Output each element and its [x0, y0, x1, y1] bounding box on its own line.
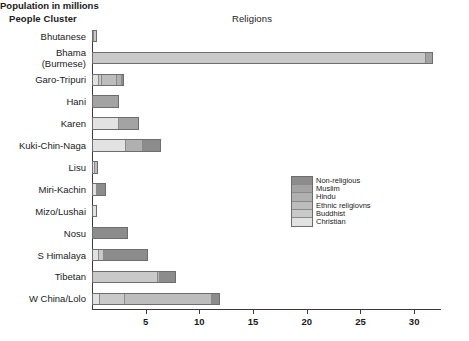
- bar-segment-muslim: [426, 53, 432, 64]
- legend-item[interactable]: Hindu: [292, 193, 312, 201]
- category-label: Lisu: [69, 162, 86, 173]
- bar-segment-non-religious: [97, 184, 105, 195]
- bar-segment-buddhist: [100, 294, 124, 305]
- bar-kuki-chin-naga[interactable]: [92, 139, 161, 152]
- legend-swatch-buddhist: [292, 210, 312, 218]
- chart-root: People Cluster Religions BhutaneseBhama(…: [0, 0, 469, 341]
- x-tick: [414, 309, 415, 314]
- legend-swatch-non-religious: [292, 177, 312, 185]
- category-label: Mizo/Lushai: [35, 206, 86, 217]
- bar-segment-hindu: [126, 140, 143, 151]
- x-tick: [146, 309, 147, 314]
- chart-title: Religions: [232, 13, 272, 24]
- bar-garo-tripuri[interactable]: [92, 74, 124, 87]
- legend-item[interactable]: Non-religious: [292, 177, 312, 185]
- bar-w-china-lolo[interactable]: [92, 293, 220, 306]
- bar-segment-non-religious: [104, 250, 146, 261]
- category-label: Garo-Tripuri: [35, 74, 86, 85]
- bar-s-himalaya[interactable]: [92, 249, 148, 262]
- category-label: Bhutanese: [41, 31, 86, 42]
- legend-item[interactable]: Christian: [292, 218, 312, 226]
- people-cluster-header: People Cluster: [9, 13, 77, 24]
- bar-segment-christian: [93, 206, 96, 217]
- legend-label: Christian: [316, 218, 346, 226]
- category-label: Bhama(Burmese): [42, 47, 86, 69]
- legend-swatch-christian: [292, 218, 312, 226]
- bar-segment-buddhist: [94, 31, 96, 42]
- x-tick: [253, 309, 254, 314]
- legend-item[interactable]: Ethnic religiovns: [292, 202, 312, 210]
- category-label: Karen: [61, 118, 86, 129]
- bar-segment-christian: [93, 140, 126, 151]
- category-label: Kuki-Chin-Naga: [19, 140, 86, 151]
- x-axis-line: [92, 309, 441, 310]
- bar-segment-ethnic-religiovns: [95, 162, 96, 173]
- legend-swatch-hindu: [292, 193, 312, 201]
- legend-item[interactable]: Buddhist: [292, 210, 312, 218]
- legend-swatch-muslim: [292, 185, 312, 193]
- x-tick: [199, 309, 200, 314]
- bar-segment-buddhist: [93, 53, 426, 64]
- bar-segment-non-religious: [212, 294, 218, 305]
- category-label: Miri-Kachin: [38, 184, 86, 195]
- legend-item[interactable]: Muslim: [292, 185, 312, 193]
- x-tick-label: 5: [143, 316, 148, 327]
- bar-bhama-burmese[interactable]: [92, 52, 433, 65]
- bar-nosu[interactable]: [92, 227, 128, 240]
- legend-swatch-ethnic-religiovns: [292, 202, 312, 210]
- bar-segment-buddhist: [93, 272, 158, 283]
- bar-segment-non-religious: [93, 228, 127, 239]
- x-tick-label: 15: [248, 316, 259, 327]
- bar-bhutanese[interactable]: [92, 30, 97, 43]
- x-tick: [360, 309, 361, 314]
- bar-segment-non-religious: [122, 75, 123, 86]
- x-tick-label: 25: [355, 316, 366, 327]
- category-label: Hani: [66, 96, 86, 107]
- x-tick-label: 10: [194, 316, 205, 327]
- legend: Non-religiousMuslimHinduEthnic religiovn…: [291, 176, 313, 227]
- plot-area: BhutaneseBhama(Burmese)Garo-TripuriHaniK…: [92, 30, 469, 308]
- x-tick: [307, 309, 308, 314]
- bar-hani[interactable]: [92, 95, 119, 108]
- bar-mizo-lushai[interactable]: [92, 205, 97, 218]
- bar-segment-non-religious: [143, 140, 160, 151]
- bar-tibetan[interactable]: [92, 271, 176, 284]
- bar-segment-muslim: [119, 118, 139, 129]
- bar-miri-kachin[interactable]: [92, 183, 106, 196]
- x-tick-label: 30: [409, 316, 420, 327]
- x-axis-title: Population in millions: [0, 0, 469, 11]
- bar-segment-ethnic-religiovns: [102, 75, 117, 86]
- category-label: W China/Lolo: [29, 293, 86, 304]
- bar-segment-christian: [93, 294, 100, 305]
- bar-lisu[interactable]: [92, 161, 98, 174]
- bar-segment-ethnic-religiovns: [125, 294, 213, 305]
- bar-segment-christian: [93, 118, 119, 129]
- bar-segment-non-religious: [160, 272, 175, 283]
- x-tick-label: 20: [301, 316, 312, 327]
- category-label: Nosu: [64, 228, 86, 239]
- bar-karen[interactable]: [92, 117, 139, 130]
- bar-segment-muslim: [93, 96, 118, 107]
- category-label: S Himalaya: [37, 250, 86, 261]
- category-label: Tibetan: [55, 271, 86, 282]
